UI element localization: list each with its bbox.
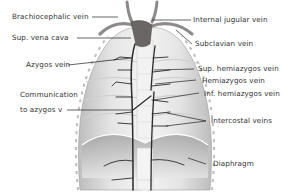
- label-inf-hemiazygos-vein: Inf. hemiazygos vein: [204, 90, 280, 98]
- label-to-azygos: to azygos v: [20, 106, 62, 114]
- label-subclavian-vein: Subclavian vein: [195, 40, 253, 48]
- label-azygos-vein: Azygos vein: [26, 61, 70, 69]
- label-internal-jugular-vein: Internal jugular vein: [193, 16, 268, 24]
- label-sup-hemiazygos-vein: Sup. hemiazygos vein: [198, 65, 279, 73]
- label-hemiazygos-vein: Hemiazygos vein: [202, 77, 265, 85]
- label-communication: Communication: [20, 91, 78, 99]
- azygos-system-diagram: Brachiocephalic vein Sup. vena cava Azyg…: [0, 0, 289, 195]
- label-brachiocephalic-vein: Brachiocephalic vein: [12, 13, 89, 21]
- label-sup-vena-cava: Sup. vena cava: [12, 34, 69, 42]
- label-diaphragm: Diaphragm: [213, 160, 254, 168]
- label-intercostal-veins: Intercostal veins: [211, 117, 272, 125]
